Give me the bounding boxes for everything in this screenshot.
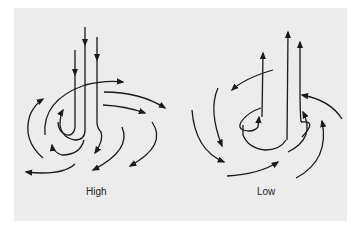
low-pressure-streamlines	[192, 32, 342, 178]
high-pressure-streamlines	[26, 27, 165, 173]
low-label: Low	[257, 186, 275, 197]
streamline-diagram	[0, 0, 361, 230]
high-label: High	[86, 186, 107, 197]
